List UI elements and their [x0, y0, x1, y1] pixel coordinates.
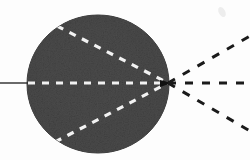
- ray-diagram: [0, 0, 250, 160]
- figure-canvas: [0, 0, 250, 160]
